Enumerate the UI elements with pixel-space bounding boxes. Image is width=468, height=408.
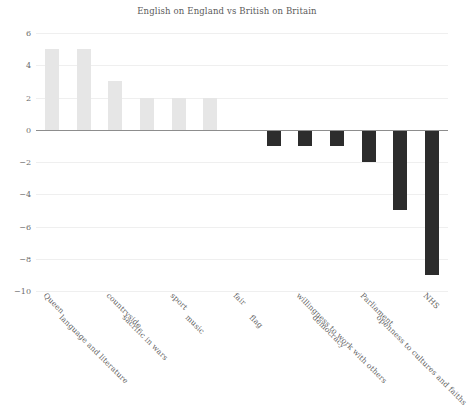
y-axis-tick-label: −4	[19, 190, 31, 199]
bar	[45, 49, 59, 130]
bar	[425, 130, 439, 275]
bar	[140, 98, 154, 130]
bar	[267, 130, 281, 146]
bar	[298, 130, 312, 146]
x-axis-label: music	[184, 313, 207, 336]
bar	[172, 98, 186, 130]
y-axis-tick-label: −6	[19, 222, 31, 231]
y-axis-tick-label: 2	[26, 93, 31, 102]
bar	[330, 130, 344, 146]
gridline	[36, 162, 448, 163]
x-axis-label: sport	[168, 291, 189, 312]
x-axis-labels: Queenlanguage and literaturecountrysides…	[36, 291, 448, 408]
bar	[362, 130, 376, 162]
y-axis-tick-label: 6	[26, 29, 31, 38]
x-axis-label: sacrific in wars	[121, 313, 170, 362]
x-axis-label: Queen	[41, 291, 65, 315]
plot-area: 6420−2−4−6−8−10	[36, 33, 448, 291]
y-axis-tick-label: 0	[26, 125, 31, 134]
bar	[203, 98, 217, 130]
gridline	[36, 194, 448, 195]
gridline	[36, 227, 448, 228]
gridline	[36, 33, 448, 34]
bar	[108, 81, 122, 129]
y-axis-tick-label: −10	[14, 287, 31, 296]
gridline	[36, 259, 448, 260]
x-axis-label: NHS	[422, 291, 442, 311]
x-axis-label: openness to cultures and faiths	[374, 313, 468, 407]
gridline	[36, 98, 448, 99]
gridline	[36, 65, 448, 66]
x-axis-label: flag	[247, 313, 264, 330]
y-axis-tick-label: 4	[26, 61, 31, 70]
x-axis-label: language and literature	[57, 313, 129, 385]
zero-axis-line	[36, 130, 448, 131]
bar	[393, 130, 407, 211]
bar	[77, 49, 91, 130]
x-axis-label: fair	[232, 291, 248, 307]
chart-title: English on England vs British on Britain	[0, 6, 454, 16]
y-axis-tick-label: −2	[19, 158, 31, 167]
y-axis-tick-label: −8	[19, 254, 31, 263]
